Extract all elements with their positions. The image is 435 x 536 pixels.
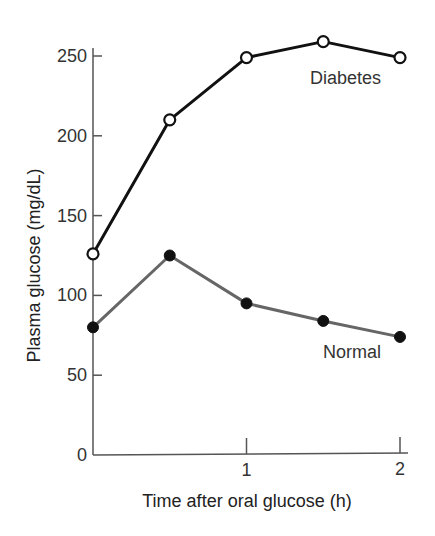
glucose-tolerance-chart: 050100150200250 12 Plasma glucose (mg/dL… [0, 0, 435, 536]
data-point-diabetes [88, 248, 99, 259]
data-point-diabetes [164, 114, 175, 125]
series-label-normal: Normal [323, 342, 381, 362]
x-axis [93, 453, 408, 455]
x-tick-label: 1 [241, 460, 251, 480]
y-tick-label: 50 [67, 365, 87, 385]
x-axis-label: Time after oral glucose (h) [142, 491, 351, 511]
data-point-normal [241, 298, 252, 309]
data-point-diabetes [241, 52, 252, 63]
data-point-normal [395, 331, 406, 342]
y-tick-label: 200 [57, 126, 87, 146]
data-point-diabetes [318, 36, 329, 47]
data-point-normal [88, 322, 99, 333]
series-line-normal [93, 256, 400, 337]
y-tick-label: 0 [77, 445, 87, 465]
y-axis-label: Plasma glucose (mg/dL) [24, 168, 44, 362]
axes [93, 48, 408, 455]
x-ticks: 12 [241, 437, 405, 480]
series-label-diabetes: Diabetes [310, 68, 381, 88]
y-tick-label: 100 [57, 285, 87, 305]
data-point-diabetes [395, 52, 406, 63]
data-point-normal [164, 250, 175, 261]
y-tick-label: 150 [57, 206, 87, 226]
data-point-normal [318, 315, 329, 326]
y-tick-label: 250 [57, 46, 87, 66]
x-tick-label: 2 [395, 459, 405, 479]
series-normal [88, 250, 406, 342]
